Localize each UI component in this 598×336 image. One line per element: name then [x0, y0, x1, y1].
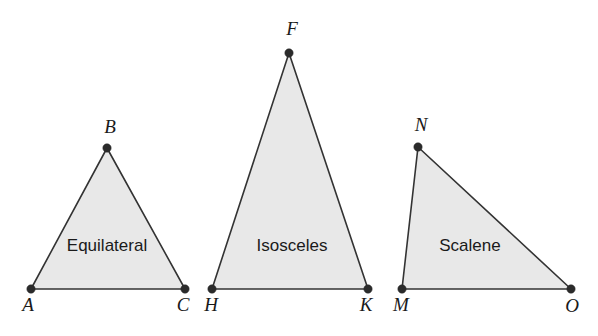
vertex-dot-B: [103, 144, 111, 152]
vertex-label-K: K: [359, 294, 374, 315]
triangle-name-label-isosceles: Isosceles: [257, 236, 328, 255]
triangle-shape-equilateral: [31, 148, 185, 289]
vertex-label-F: F: [285, 18, 298, 39]
triangle-shape-scalene: [402, 147, 571, 289]
vertex-dot-N: [414, 143, 422, 151]
vertex-dot-M: [398, 285, 406, 293]
vertex-dot-K: [364, 285, 372, 293]
vertex-label-O: O: [565, 295, 579, 316]
triangle-name-label-scalene: Scalene: [439, 236, 500, 255]
vertex-dot-A: [27, 285, 35, 293]
triangle-scalene: ScaleneMNO: [392, 114, 579, 316]
figure-canvas: EquilateralABCIsoscelesHFKScaleneMNO: [0, 0, 598, 336]
vertex-dot-C: [181, 285, 189, 293]
vertex-label-N: N: [414, 114, 429, 135]
vertex-label-M: M: [392, 294, 410, 315]
triangle-name-label-equilateral: Equilateral: [67, 236, 147, 255]
triangle-types-figure: EquilateralABCIsoscelesHFKScaleneMNO: [0, 0, 598, 336]
vertex-dot-F: [285, 49, 293, 57]
vertex-dot-O: [567, 285, 575, 293]
vertex-label-C: C: [177, 294, 190, 315]
vertex-label-H: H: [203, 294, 219, 315]
vertex-label-B: B: [104, 116, 116, 137]
vertex-label-A: A: [20, 294, 34, 315]
vertex-dot-H: [208, 285, 216, 293]
triangle-equilateral: EquilateralABC: [20, 116, 189, 315]
triangle-isosceles: IsoscelesHFK: [203, 18, 374, 315]
